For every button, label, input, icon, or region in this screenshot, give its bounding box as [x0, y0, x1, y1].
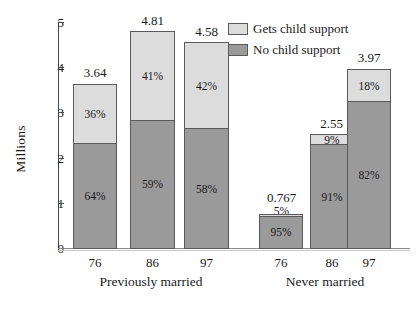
legend-item-label: No child support	[253, 43, 340, 57]
y-axis-line	[58, 22, 59, 249]
legend-swatch-icon	[228, 23, 248, 35]
bar-total-label: 3.97	[347, 51, 391, 64]
x-tick-label-prev-97: 97	[184, 256, 229, 270]
bar-segment-label: 9%	[324, 135, 339, 145]
bar-chart: 5 4 3 2 1 0 Millions 3.64 36% 64% 4.81 4…	[0, 0, 417, 309]
bar-previously-married-86[interactable]: 41% 59%	[130, 31, 175, 249]
bar-never-married-97[interactable]: 18% 82%	[347, 69, 391, 249]
bar-total-label: 0.767	[254, 191, 309, 204]
y-tick-mark-3	[58, 112, 64, 113]
bar-segment-no-support: 59%	[131, 121, 174, 248]
y-tick-3: 3	[0, 106, 64, 119]
y-tick-mark-2	[58, 158, 64, 159]
bar-segment-gets-support: 41%	[131, 32, 174, 121]
bar-segment-label: 58%	[196, 183, 217, 195]
legend-item-label: Gets child support	[253, 22, 348, 36]
y-tick-1: 1	[0, 197, 64, 210]
bar-segment-label: 41%	[142, 70, 163, 82]
x-tick-label-never-76: 76	[259, 256, 303, 270]
bar-previously-married-97[interactable]: 42% 58%	[184, 42, 229, 249]
bar-segment-label: 82%	[358, 169, 379, 181]
bar-segment-gets-support: 42%	[185, 43, 228, 129]
legend-item-no-child-support[interactable]: No child support	[228, 41, 348, 58]
bar-total-label: 3.64	[73, 66, 117, 79]
x-group-label-previously-married: Previously married	[73, 275, 229, 289]
x-tick-label-prev-86: 86	[130, 256, 175, 270]
y-tick-5: 5	[0, 16, 64, 29]
y-tick-mark-4	[58, 67, 64, 68]
bar-never-married-76[interactable]: 95%	[259, 214, 303, 249]
bar-segment-label: 64%	[84, 190, 105, 202]
bar-segment-label: 59%	[142, 178, 163, 190]
bar-total-label: 4.81	[130, 14, 175, 27]
bar-previously-married-76[interactable]: 36% 64%	[73, 84, 117, 249]
bar-segment-label: 91%	[321, 191, 342, 203]
bar-segment-no-support: 58%	[185, 129, 228, 248]
y-axis-title: Millions	[14, 109, 28, 189]
legend-item-gets-child-support[interactable]: Gets child support	[228, 20, 348, 37]
bar-segment-no-support: 82%	[348, 102, 390, 248]
bar-total-label: 4.58	[184, 25, 229, 38]
y-tick-mark-1	[58, 203, 64, 204]
x-group-label-never-married: Never married	[259, 275, 391, 289]
y-tick-mark-5	[58, 22, 64, 23]
bar-segment-label: 36%	[84, 108, 105, 120]
legend: Gets child support No child support	[228, 20, 348, 62]
x-axis-shadow-line	[58, 250, 410, 251]
bar-segment-label: 18%	[358, 80, 379, 92]
bar-segment-gets-support: 36%	[74, 85, 116, 144]
bar-segment-label: 42%	[196, 80, 217, 92]
y-tick-0: 0	[0, 242, 64, 255]
bar-segment-label: 95%	[270, 226, 291, 238]
legend-swatch-icon	[228, 44, 248, 56]
bar-segment-gets-support: 18%	[348, 70, 390, 102]
x-tick-label-prev-76: 76	[73, 256, 117, 270]
bar-segment-no-support: 64%	[74, 144, 116, 248]
bar-segment-no-support: 95%	[260, 217, 302, 248]
y-tick-4: 4	[0, 61, 64, 74]
y-tick-2: 2	[0, 152, 64, 165]
x-tick-label-never-97: 97	[347, 256, 391, 270]
